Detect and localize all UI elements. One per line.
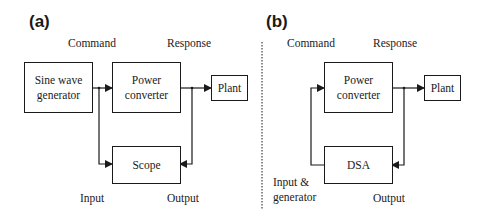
panel-a-label: (a) — [29, 12, 50, 32]
command-label-b: Command — [287, 37, 335, 49]
power-converter-block-a: Power converter — [112, 62, 181, 113]
plant-label-b: Plant — [431, 81, 455, 96]
output-tap-line-a — [180, 88, 192, 164]
panel-b-label: (b) — [266, 12, 288, 32]
input-tap-line-a — [99, 88, 112, 164]
output-label-b: Output — [373, 192, 405, 204]
power-converter-label-a: Power converter — [121, 73, 173, 103]
plant-block-b: Plant — [424, 75, 461, 101]
scope-block: Scope — [112, 146, 181, 184]
power-converter-block-b: Power converter — [324, 62, 393, 113]
output-label-a: Output — [167, 192, 199, 204]
junction-dot-a1 — [98, 87, 101, 90]
input-label-a: Input — [80, 192, 104, 204]
plant-label-a: Plant — [218, 81, 242, 96]
input-generator-label-b: Input & generator — [273, 175, 323, 205]
command-label-a: Command — [68, 37, 116, 49]
dsa-block: DSA — [324, 146, 393, 184]
output-tap-line-b — [392, 88, 404, 165]
junction-dot-a2 — [191, 87, 194, 90]
sine-wave-generator-block: Sine wave generator — [24, 62, 93, 113]
dsa-label: DSA — [347, 158, 370, 173]
plant-block-a: Plant — [211, 75, 248, 101]
junction-dot-b — [403, 87, 406, 90]
scope-label: Scope — [132, 158, 160, 173]
response-label-a: Response — [167, 37, 211, 49]
response-label-b: Response — [373, 37, 417, 49]
generator-line-b — [311, 88, 324, 165]
power-converter-label-b: Power converter — [333, 73, 385, 103]
sine-wave-generator-label: Sine wave generator — [33, 73, 85, 103]
